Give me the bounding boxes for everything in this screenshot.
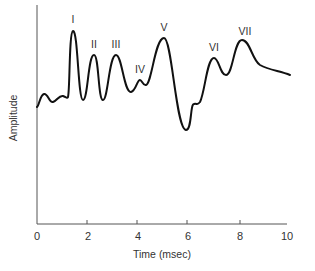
x-tick-labels: 0 2 4 6 8 10 [34, 230, 293, 242]
peak-label-iv: IV [135, 63, 145, 75]
x-tick-label: 8 [237, 230, 243, 242]
y-axis-title: Amplitude [7, 95, 19, 142]
x-tick-label: 2 [85, 230, 91, 242]
peak-label-vi: VI [209, 41, 219, 53]
peak-label-vii: VII [239, 25, 252, 37]
peak-label-i: I [72, 13, 75, 25]
x-ticks [87, 220, 240, 224]
peak-label-iii: III [112, 38, 121, 50]
waveform-line [37, 31, 290, 130]
x-tick-label: 10 [281, 230, 293, 242]
peak-labels: I II III IV V VI VII [72, 13, 252, 75]
peak-label-v: V [160, 21, 167, 33]
waveform-chart: 0 2 4 6 8 10 Time (msec) Amplitude I II … [0, 0, 315, 271]
x-tick-label: 0 [34, 230, 40, 242]
x-tick-label: 4 [135, 230, 141, 242]
peak-label-ii: II [91, 38, 97, 50]
x-tick-label: 6 [185, 230, 191, 242]
x-axis-title: Time (msec) [133, 248, 191, 260]
